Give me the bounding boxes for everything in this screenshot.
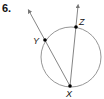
point-label-z: Z — [78, 17, 85, 27]
point-x — [68, 84, 72, 88]
circle-diagram: XYZ — [0, 0, 104, 99]
ray-xy — [29, 11, 70, 86]
point-label-x: X — [65, 89, 73, 99]
point-z — [74, 25, 78, 29]
point-y — [43, 38, 47, 42]
point-label-y: Y — [33, 36, 40, 46]
ray-xz — [70, 6, 78, 86]
